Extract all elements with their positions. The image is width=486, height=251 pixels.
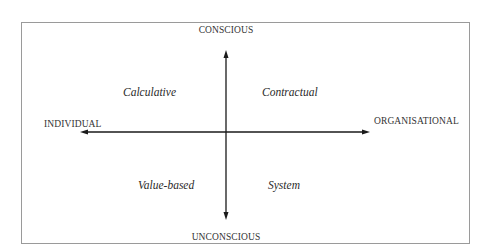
axis-label-unconscious: UNCONSCIOUS [192, 233, 261, 243]
quadrant-label-value-based: Value-based [138, 180, 194, 192]
axis-label-organisational: ORGANISATIONAL [374, 117, 459, 127]
quadrant-label-calculative: Calculative [123, 87, 176, 99]
axis-label-conscious: CONSCIOUS [199, 26, 254, 36]
axis-label-individual: INDIVIDUAL [44, 120, 101, 130]
arrow-up-icon [224, 50, 229, 58]
arrow-down-icon [224, 212, 229, 220]
quadrant-label-contractual: Contractual [262, 87, 318, 99]
quadrant-label-system: System [268, 180, 300, 192]
horizontal-axis [80, 130, 370, 135]
arrow-right-icon [362, 130, 370, 135]
vertical-axis [224, 50, 229, 220]
arrow-left-icon [80, 130, 88, 135]
